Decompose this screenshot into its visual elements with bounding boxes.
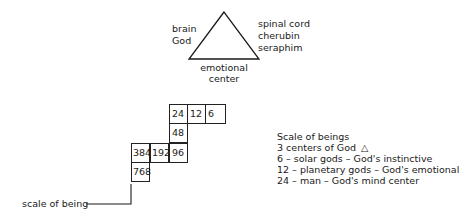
grid-cell-192: 192	[150, 143, 169, 163]
scale-of-being-label: scale of being	[22, 198, 88, 210]
legend-title: Scale of beings	[277, 131, 459, 142]
legend-line-2: 6 – solar gods – God's instinctive	[277, 153, 459, 164]
legend-line-3: 12 – planetary gods – God's emotional	[277, 164, 459, 175]
grid-cell-12: 12	[187, 104, 206, 124]
grid-cell-384: 384	[131, 143, 150, 163]
triangle-bottom-label-2: center	[194, 73, 254, 85]
triangle-left-label-1: brain	[172, 23, 196, 35]
scale-pointer-line	[86, 184, 131, 204]
triangle-right-label-3: seraphim	[258, 42, 302, 54]
grid-cell-6: 6	[205, 104, 226, 124]
grid-cell-96: 96	[169, 143, 188, 163]
legend-line-4: 24 – man – God's mind center	[277, 175, 459, 186]
legend-line-1: 3 centers of God △	[277, 142, 459, 153]
legend: Scale of beings 3 centers of God △ 6 – s…	[277, 131, 459, 186]
triangle-right-label-1: spinal cord	[258, 18, 310, 30]
small-triangle-icon: △	[361, 142, 368, 153]
grid-cell-24: 24	[169, 104, 188, 124]
grid-cell-768: 768	[131, 162, 150, 182]
legend-line-1-text: 3 centers of God	[277, 142, 356, 153]
grid-cell-48: 48	[169, 123, 188, 143]
triangle-left-label-2: God	[172, 35, 191, 47]
triangle-right-label-2: cherubin	[258, 30, 300, 42]
centers-triangle	[189, 12, 259, 59]
